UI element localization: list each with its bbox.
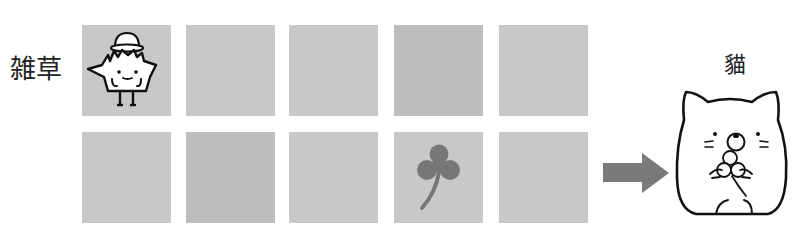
grid-cell-r1-c1 xyxy=(82,25,171,116)
grid-cell-r2-c5 xyxy=(499,132,588,223)
grid-cell-r1-c3 xyxy=(289,25,378,116)
clover-icon xyxy=(394,132,483,223)
cat-label: 貓 xyxy=(724,50,746,80)
grid-cell-r2-c1 xyxy=(82,132,171,223)
weed-label: 雑草 xyxy=(10,52,62,86)
cat-holding-clover-icon xyxy=(672,86,792,222)
grid-cell-r1-c4 xyxy=(394,25,483,116)
grid-cell-r1-c2 xyxy=(186,25,275,116)
grid-cell-r2-c4 xyxy=(394,132,483,223)
grid-cell-r1-c5 xyxy=(499,25,588,116)
arrow-right-icon xyxy=(600,150,672,196)
grid-cell-r2-c3 xyxy=(289,132,378,223)
grid-cell-r2-c2 xyxy=(186,132,275,223)
weed-character-icon xyxy=(82,25,171,116)
